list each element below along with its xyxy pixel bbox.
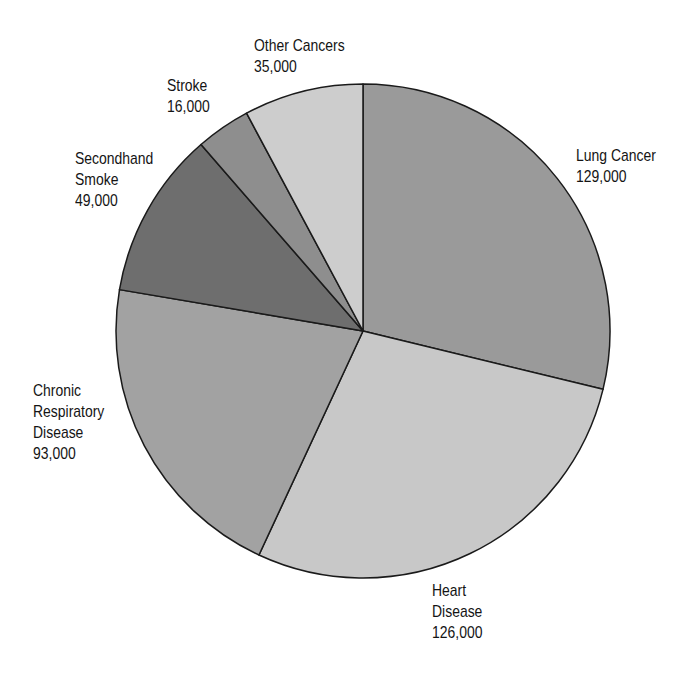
label-heart-disease: Heart Disease 126,000 — [432, 580, 482, 643]
label-lung-cancer: Lung Cancer 129,000 — [576, 145, 656, 187]
label-text: Disease — [432, 601, 482, 622]
label-value: 126,000 — [432, 622, 482, 643]
label-text: Smoke — [75, 169, 153, 190]
label-other-cancers: Other Cancers 35,000 — [254, 35, 345, 77]
label-value: 49,000 — [75, 190, 153, 211]
label-stroke: Stroke 16,000 — [167, 75, 210, 117]
pie-chart — [0, 0, 692, 683]
label-text: Disease — [33, 422, 104, 443]
label-text: Stroke — [167, 75, 210, 96]
label-text: Lung Cancer — [576, 145, 656, 166]
label-text: Respiratory — [33, 401, 104, 422]
label-text: Other Cancers — [254, 35, 345, 56]
label-value: 35,000 — [254, 56, 345, 77]
label-value: 93,000 — [33, 443, 104, 464]
label-chronic-respiratory-disease: Chronic Respiratory Disease 93,000 — [33, 380, 104, 464]
label-text: Chronic — [33, 380, 104, 401]
label-text: Heart — [432, 580, 482, 601]
label-value: 129,000 — [576, 166, 656, 187]
label-secondhand-smoke: Secondhand Smoke 49,000 — [75, 148, 153, 211]
label-text: Secondhand — [75, 148, 153, 169]
label-value: 16,000 — [167, 96, 210, 117]
